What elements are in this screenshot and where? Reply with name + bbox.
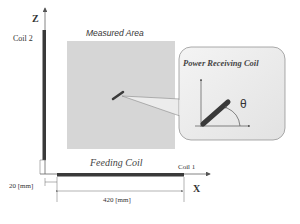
coil1-bar	[57, 173, 184, 177]
measured-area	[67, 41, 175, 149]
coil2-bar	[43, 30, 47, 160]
coil-layout-diagram: Z Coil 2 Measured Area Power Receiving C…	[0, 0, 300, 224]
measured-area-title: Measured Area	[86, 28, 144, 38]
x-axis-label: X	[193, 183, 200, 194]
diagram-graphics	[0, 0, 300, 224]
coil1-label: Coil 1	[178, 163, 195, 171]
theta-label: θ	[240, 97, 247, 111]
z-axis-label: Z	[32, 13, 39, 24]
gap-dimension-label: 20 [mm]	[9, 182, 33, 190]
length-dimension-label: 420 [mm]	[103, 196, 131, 204]
feeding-coil-label: Feeding Coil	[90, 157, 143, 168]
callout-title: Power Receiving Coil	[183, 58, 259, 68]
coil2-label: Coil 2	[13, 34, 33, 43]
